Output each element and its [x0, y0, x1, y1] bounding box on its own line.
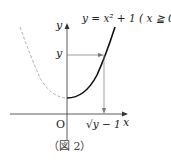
y-axis-label: y — [56, 20, 62, 31]
dashed-curve-left — [20, 27, 67, 98]
origin-label: O — [56, 119, 65, 130]
horizontal-arrow-icon — [98, 53, 104, 57]
figure-caption: （図 2） — [48, 141, 92, 152]
curve-right — [67, 27, 115, 98]
x-marker-label: √y − 1 — [86, 119, 121, 130]
vertical-arrow-icon — [102, 108, 106, 114]
graph-canvas — [0, 0, 171, 160]
x-axis-label: x — [123, 117, 129, 128]
equation-label: y = x² + 1 ( x ≧ 0) — [82, 13, 171, 24]
y-axis-arrow-icon — [65, 23, 70, 29]
y-marker-label: y — [56, 48, 62, 59]
